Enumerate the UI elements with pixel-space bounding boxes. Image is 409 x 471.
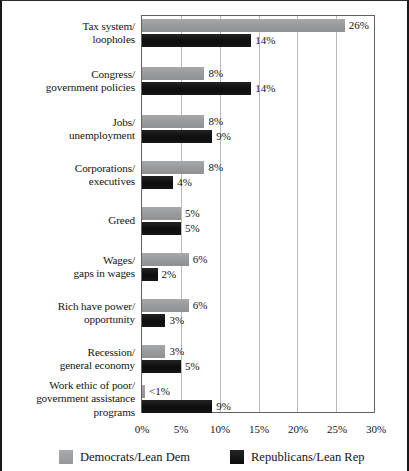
category-label: Greed [0, 214, 135, 227]
bar-dem: 8% [142, 67, 204, 80]
bar-dem: 6% [142, 299, 189, 312]
bar-rect [142, 207, 181, 220]
bar-value-label: 5% [185, 206, 200, 220]
bar-rep: 14% [142, 34, 251, 47]
bar-rect [142, 34, 251, 47]
bar-value-label: 5% [185, 359, 200, 373]
x-tick-label: 0% [122, 423, 162, 435]
bar-dem: 5% [142, 207, 181, 220]
bar-value-label: 6% [193, 252, 208, 266]
bar-rep: 4% [142, 176, 173, 189]
figure-frame: Tax system/ loopholes26%14%Congress/ gov… [0, 0, 409, 471]
bar-value-label: 2% [162, 267, 177, 281]
category-label: Corporations/ executives [0, 162, 135, 188]
rep-swatch [230, 450, 244, 464]
category-label: Congress/ government policies [0, 68, 135, 94]
legend-label: Republicans/Lean Rep [251, 448, 365, 467]
bar-rep: 2% [142, 268, 158, 281]
bar-value-label: 5% [185, 221, 200, 235]
legend-label: Democrats/Lean Dem [80, 448, 190, 467]
bar-rect [142, 222, 181, 235]
bar-rect [142, 400, 212, 413]
bar-rect [142, 314, 165, 327]
bar-group: Recession/ general economy3%5% [2, 345, 409, 373]
chart-area: Tax system/ loopholes26%14%Congress/ gov… [2, 9, 409, 413]
bar-value-label: 8% [208, 160, 223, 174]
bar-dem: 6% [142, 253, 189, 266]
bar-value-label: <1% [149, 384, 170, 398]
bar-rect [142, 360, 181, 373]
category-label: Tax system/ loopholes [0, 20, 135, 46]
x-axis-ticks: 0%5%10%15%20%25%30% [2, 423, 409, 441]
bar-group: Work ethic of poor/ government assistanc… [2, 385, 409, 413]
category-label: Wages/ gaps in wages [0, 254, 135, 280]
bar-rect [142, 115, 204, 128]
bar-rep: 9% [142, 400, 212, 413]
bar-dem: 8% [142, 161, 204, 174]
bar-group: Tax system/ loopholes26%14% [2, 19, 409, 47]
bar-value-label: 4% [177, 175, 192, 189]
bar-group: Rich have power/ opportunity6%3% [2, 299, 409, 327]
bar-group: Greed5%5% [2, 207, 409, 235]
bar-value-label: 8% [208, 114, 223, 128]
bar-group: Wages/ gaps in wages6%2% [2, 253, 409, 281]
bar-rect [142, 253, 189, 266]
bar-rect [142, 19, 345, 32]
bar-rect [142, 299, 189, 312]
category-label: Rich have power/ opportunity [0, 300, 135, 326]
bar-group: Jobs/ unemployment8%9% [2, 115, 409, 143]
bar-value-label: 3% [169, 313, 184, 327]
x-tick-label: 15% [239, 423, 279, 435]
bar-rep: 14% [142, 82, 251, 95]
bar-rep: 5% [142, 222, 181, 235]
bar-value-label: 9% [216, 399, 231, 413]
bar-rect [142, 67, 204, 80]
bar-value-label: 14% [255, 81, 275, 95]
bar-value-label: 6% [193, 298, 208, 312]
x-tick-label: 30% [356, 423, 396, 435]
bar-rect [142, 82, 251, 95]
bar-value-label: 26% [349, 18, 369, 32]
category-label: Jobs/ unemployment [0, 116, 135, 142]
category-label: Work ethic of poor/ government assistanc… [0, 379, 135, 419]
bar-rect [142, 176, 173, 189]
bar-group: Corporations/ executives8%4% [2, 161, 409, 189]
bar-value-label: 14% [255, 33, 275, 47]
category-label: Recession/ general economy [0, 346, 135, 372]
bar-rect [142, 130, 212, 143]
bar-value-label: 8% [208, 66, 223, 80]
x-tick-label: 20% [278, 423, 318, 435]
bar-dem: 3% [142, 345, 165, 358]
bar-rep: 9% [142, 130, 212, 143]
chart-legend: Democrats/Lean DemRepublicans/Lean Rep [2, 448, 409, 471]
bar-value-label: 9% [216, 129, 231, 143]
bar-rep: 3% [142, 314, 165, 327]
bar-value-label: 3% [169, 344, 184, 358]
bar-rep: 5% [142, 360, 181, 373]
bar-rect [142, 268, 158, 281]
bar-rect [142, 385, 145, 398]
x-tick-label: 25% [317, 423, 357, 435]
bar-rect [142, 345, 165, 358]
bar-rect [142, 161, 204, 174]
bar-dem: 26% [142, 19, 345, 32]
bar-group: Congress/ government policies8%14% [2, 67, 409, 95]
dem-swatch [59, 450, 73, 464]
bar-groups: Tax system/ loopholes26%14%Congress/ gov… [2, 15, 409, 413]
x-tick-label: 5% [161, 423, 201, 435]
bar-dem: 8% [142, 115, 204, 128]
x-tick-label: 10% [200, 423, 240, 435]
bar-dem: <1% [142, 385, 145, 398]
